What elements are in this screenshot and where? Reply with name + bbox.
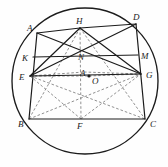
circumcenter-marker — [87, 74, 90, 77]
chord-HG — [80, 28, 141, 74]
dashed-segments-layer — [29, 28, 145, 119]
dashed-FG — [81, 74, 141, 119]
point-label-G: G — [146, 70, 153, 80]
point-label-K: K — [21, 53, 29, 63]
geometry-figure: ABCDEFGHKMNAO — [0, 0, 168, 167]
point-label-E: E — [18, 72, 25, 82]
side-HD — [80, 24, 136, 28]
point-label-F: F — [76, 121, 83, 131]
chord-KM — [33, 55, 138, 57]
chord-EH — [30, 28, 80, 76]
geometry-canvas: ABCDEFGHKMNAO — [0, 0, 168, 167]
side-AH — [37, 28, 80, 33]
point-label-N: N — [77, 52, 85, 62]
solid-segments-layer — [29, 24, 145, 119]
point-label-A: A — [26, 23, 33, 33]
point-label-O: O — [92, 76, 99, 86]
dashed-BG — [29, 74, 141, 119]
point-label-C: C — [150, 119, 157, 129]
dashed-EF — [30, 76, 81, 119]
point-label-B: B — [18, 119, 24, 129]
center-dot-layer — [87, 74, 90, 77]
point-label-M: M — [140, 51, 149, 61]
point-label-P: A — [79, 68, 86, 78]
point-label-H: H — [75, 16, 83, 26]
point-label-D: D — [132, 12, 140, 22]
dashed-EC — [30, 76, 145, 119]
